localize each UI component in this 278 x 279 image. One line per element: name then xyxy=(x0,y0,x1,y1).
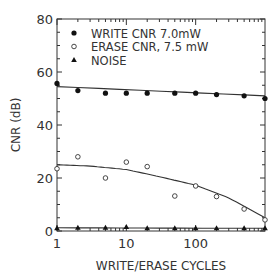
open-circle-marker xyxy=(103,176,108,181)
legend-label: WRITE CNR 7.0mW xyxy=(91,27,201,41)
y-tick-label: 40 xyxy=(36,118,53,133)
open-circle-marker xyxy=(172,194,177,199)
x-axis-label: WRITE/ERASE CYCLES xyxy=(96,259,226,273)
fit-line xyxy=(57,165,265,218)
x-tick-label: 1 xyxy=(53,236,61,251)
filled-circle-marker xyxy=(214,92,219,97)
open-circle-marker xyxy=(76,155,81,160)
open-circle-marker xyxy=(214,194,219,199)
open-circle-marker xyxy=(263,218,268,223)
legend: WRITE CNR 7.0mWERASE CNR, 7.5 mWNOISE xyxy=(71,27,208,68)
y-tick-label: 80 xyxy=(36,12,53,27)
data-points xyxy=(54,81,268,231)
open-circle-marker xyxy=(124,160,129,165)
fit-lines xyxy=(57,87,265,229)
filled-circle-marker xyxy=(193,91,198,96)
open-circle-marker xyxy=(55,166,60,171)
x-tick-label: 100 xyxy=(183,236,208,251)
triangle-marker xyxy=(75,225,81,230)
cnr-chart: 020406080110100 WRITE CNR 7.0mWERASE CNR… xyxy=(0,0,278,279)
open-circle-marker xyxy=(193,184,198,189)
fit-line xyxy=(57,228,265,229)
filled-circle-marker xyxy=(124,91,129,96)
triangle-marker xyxy=(71,57,77,62)
filled-circle-marker xyxy=(242,93,247,98)
filled-circle-marker xyxy=(75,88,80,93)
fit-line xyxy=(57,87,265,96)
y-tick-label: 0 xyxy=(45,224,53,239)
open-circle-marker xyxy=(242,207,247,212)
filled-circle-marker xyxy=(262,96,267,101)
triangle-marker xyxy=(124,224,130,229)
filled-circle-marker xyxy=(71,30,76,35)
open-circle-marker xyxy=(145,164,150,169)
filled-circle-marker xyxy=(172,91,177,96)
open-circle-marker xyxy=(72,44,77,49)
triangle-marker xyxy=(103,225,109,230)
filled-circle-marker xyxy=(54,81,59,86)
legend-label: ERASE CNR, 7.5 mW xyxy=(91,40,208,54)
y-tick-label: 20 xyxy=(36,171,53,186)
legend-label: NOISE xyxy=(91,54,127,68)
x-tick-label: 10 xyxy=(118,236,135,251)
filled-circle-marker xyxy=(103,91,108,96)
filled-circle-marker xyxy=(145,91,150,96)
y-tick-label: 60 xyxy=(36,65,53,80)
y-axis-label: CNR (dB) xyxy=(9,98,23,153)
